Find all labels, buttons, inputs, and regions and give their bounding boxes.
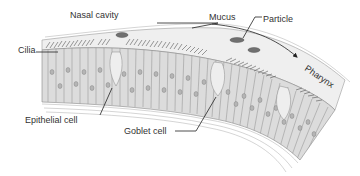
label-nasal-cavity: Nasal cavity [70, 11, 119, 20]
airway-epithelium-illustration [0, 0, 360, 176]
label-goblet-cell: Goblet cell [124, 127, 167, 136]
label-mucus: Mucus [209, 13, 236, 22]
label-cilia: Cilia [18, 46, 36, 55]
label-particle: Particle [263, 15, 293, 24]
label-epithelial-cell: Epithelial cell [25, 116, 78, 125]
